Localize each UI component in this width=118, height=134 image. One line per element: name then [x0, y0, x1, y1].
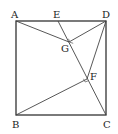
- label-d: D: [102, 9, 110, 20]
- segment-ag: [16, 21, 69, 42]
- geometry-diagram: A E D G F B C: [0, 0, 118, 134]
- segment-bf: [16, 79, 87, 115]
- label-f: F: [90, 71, 97, 82]
- label-c: C: [103, 119, 111, 130]
- label-e: E: [53, 9, 60, 20]
- label-a: A: [10, 9, 19, 20]
- square-abcd: [16, 21, 106, 115]
- label-b: B: [12, 119, 19, 130]
- label-g: G: [61, 43, 69, 54]
